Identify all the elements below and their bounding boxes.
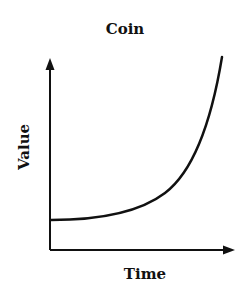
chart-plot — [0, 0, 250, 299]
x-axis-arrow-icon — [223, 246, 235, 255]
y-axis-arrow-icon — [46, 58, 55, 70]
y-axis-label: Value — [15, 130, 35, 170]
value-curve — [51, 57, 222, 220]
x-axis — [50, 246, 235, 255]
x-axis-label: Time — [100, 265, 190, 283]
